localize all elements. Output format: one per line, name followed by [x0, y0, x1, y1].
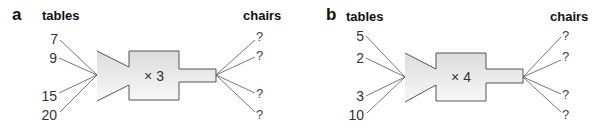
output-value: ? [256, 107, 263, 122]
input-value: 2 [356, 50, 364, 66]
output-value: ? [562, 87, 569, 102]
input-wires [59, 40, 97, 112]
panel-label: a [12, 5, 22, 24]
input-value: 9 [49, 50, 57, 66]
input-header: tables [346, 9, 384, 24]
input-value: 10 [348, 107, 364, 123]
panel-label: b [326, 5, 336, 24]
input-wires [366, 36, 405, 113]
output-wires [523, 37, 561, 112]
output-value: ? [256, 48, 263, 63]
operation-label: × 3 [144, 68, 164, 84]
output-value: ? [562, 28, 569, 43]
input-value: 7 [50, 31, 58, 47]
output-value: ? [562, 49, 569, 64]
output-value: ? [256, 86, 263, 101]
operation-label: × 4 [451, 69, 471, 85]
input-value: 5 [356, 28, 364, 44]
input-header: tables [42, 8, 80, 23]
panel-a: a tables chairs 7 9 15 20 × 3 ? ? ? ? [12, 5, 281, 123]
output-value: ? [562, 107, 569, 122]
output-header: chairs [243, 8, 281, 23]
input-value: 15 [41, 88, 57, 104]
output-header: chairs [550, 9, 588, 24]
input-value: 3 [356, 88, 364, 104]
output-value: ? [256, 29, 263, 44]
output-wires [216, 40, 255, 112]
input-value: 20 [41, 107, 57, 123]
function-machine-diagrams: a tables chairs 7 9 15 20 × 3 ? ? ? ? [0, 0, 593, 129]
panel-b: b tables chairs 5 2 3 10 × 4 ? ? ? ? [326, 5, 588, 123]
